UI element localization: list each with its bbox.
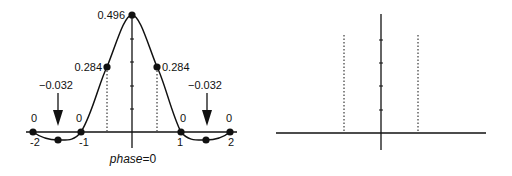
- x-tick-m2: -2: [30, 136, 40, 148]
- label-zero-m1: 0: [76, 112, 82, 124]
- arrow-left-neg: [53, 93, 63, 126]
- x-tick-p2: 2: [228, 136, 234, 148]
- label-right-mid: 0.284: [162, 61, 190, 73]
- label-right-neg: −0.032: [188, 79, 222, 91]
- label-left-neg: −0.032: [39, 79, 73, 91]
- label-zero-m2: 0: [31, 112, 37, 124]
- label-zero-p1: 0: [180, 112, 186, 124]
- caption: phase=0: [109, 152, 157, 166]
- chart-phase-0: 0.496 0.284 0.284 −0.032 −0.032 0 0 0 0 …: [26, 9, 237, 166]
- chart-phase-half: [276, 0, 486, 150]
- figure: 0.496 0.284 0.284 −0.032 −0.032 0 0 0 0 …: [0, 0, 512, 176]
- label-left-mid: 0.284: [74, 61, 102, 73]
- x-tick-m1: -1: [79, 136, 89, 148]
- arrow-right-neg: [202, 93, 212, 126]
- label-zero-p2: 0: [226, 112, 232, 124]
- x-tick-p1: 1: [177, 136, 183, 148]
- label-peak: 0.496: [97, 9, 125, 21]
